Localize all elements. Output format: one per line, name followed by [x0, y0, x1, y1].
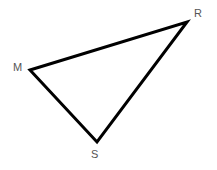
triangle-shape [0, 0, 217, 170]
vertex-label-r: R [194, 8, 202, 19]
vertex-label-m: M [13, 62, 22, 73]
geometry-figure: M R S [0, 0, 217, 170]
vertex-label-s: S [91, 149, 98, 160]
triangle-outline [30, 22, 187, 142]
